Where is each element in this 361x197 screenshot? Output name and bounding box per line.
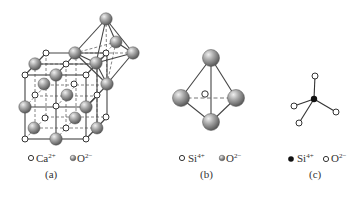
silicon-ion-b bbox=[202, 91, 208, 97]
legend-b-si-label: Si4+ bbox=[188, 152, 205, 164]
panel-c-ball-and-stick bbox=[291, 73, 339, 126]
caption-b: (b) bbox=[200, 168, 213, 181]
legend-a-ca-label: Ca2+ bbox=[36, 152, 56, 164]
oxygen-ions-a bbox=[19, 13, 139, 145]
caption-a: (a) bbox=[45, 168, 58, 181]
legend-c-si-label: Si4+ bbox=[297, 152, 314, 164]
silicon-legend-icon bbox=[179, 155, 184, 160]
panel-a-cubic-lattice bbox=[19, 13, 139, 145]
oxygen-legend-icon bbox=[323, 156, 328, 161]
oxygen-ions-b bbox=[173, 50, 245, 131]
legend-a-o-label: O2− bbox=[77, 152, 92, 164]
legend-b: Si4+ O2− (b) bbox=[179, 152, 241, 181]
legend-a: Ca2+ O2− (a) bbox=[28, 152, 92, 181]
legend-b-o-label: O2− bbox=[226, 152, 241, 164]
oxygen-legend-icon bbox=[70, 155, 76, 161]
silicon-legend-icon bbox=[288, 156, 294, 162]
legend-c: Si4+ O2− (c) bbox=[288, 152, 346, 181]
panel-b-tetrahedron bbox=[173, 50, 245, 131]
oxygen-legend-icon bbox=[219, 155, 225, 161]
crystal-structure-figure: Ca2+ O2− (a) Si4+ O2− (b) bbox=[0, 0, 361, 197]
calcium-legend-icon bbox=[28, 155, 33, 160]
legend-c-o-label: O2− bbox=[331, 152, 346, 164]
caption-c: (c) bbox=[309, 168, 322, 181]
silicon-ion-c bbox=[311, 96, 317, 102]
